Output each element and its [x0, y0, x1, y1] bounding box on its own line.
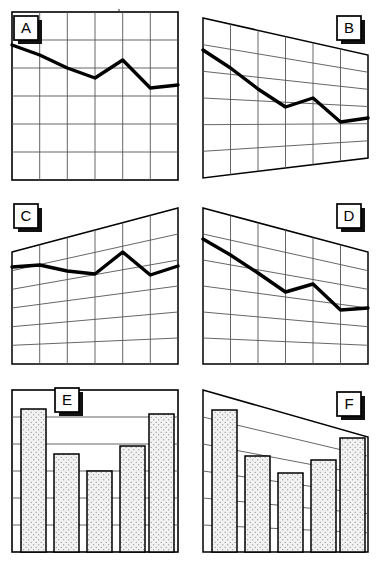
panel-d: D [189, 188, 377, 376]
panel-f-label-badge: F [337, 392, 365, 420]
bar [212, 410, 237, 552]
panel-d-chart: D [189, 188, 377, 376]
bar [149, 414, 174, 552]
figure-root: A [0, 0, 377, 563]
panel-a-chart: A [0, 0, 188, 188]
panel-c-label-badge: C [14, 204, 42, 232]
bar [278, 473, 303, 552]
panel-c: C [0, 188, 188, 376]
bar [120, 446, 145, 552]
bar [311, 460, 336, 552]
panel-c-label: C [21, 207, 32, 224]
panel-b-label: B [344, 19, 354, 36]
panel-f-label: F [344, 395, 353, 412]
panel-a-label-badge: A [14, 16, 42, 44]
panel-f-bars [212, 410, 365, 552]
panel-a: A [0, 0, 188, 188]
panel-f: F [189, 376, 377, 563]
panel-e-bars [21, 409, 174, 552]
bar [54, 454, 79, 552]
panel-c-chart: C [0, 188, 188, 376]
bar [21, 409, 46, 552]
panel-b-label-badge: B [337, 16, 365, 44]
panel-f-chart: F [189, 376, 377, 563]
bar [245, 456, 270, 552]
panel-e: E [0, 376, 188, 563]
panel-e-label-badge: E [55, 388, 83, 416]
scan-speck [118, 9, 120, 11]
panel-d-label-badge: D [337, 204, 365, 232]
panel-b: B [189, 0, 377, 188]
panel-b-chart: B [189, 0, 377, 188]
panel-e-chart: E [0, 376, 188, 563]
panel-d-label: D [344, 207, 355, 224]
panel-e-label: E [62, 391, 72, 408]
bar [87, 471, 112, 552]
panel-a-label: A [21, 19, 31, 36]
bar [340, 438, 365, 552]
